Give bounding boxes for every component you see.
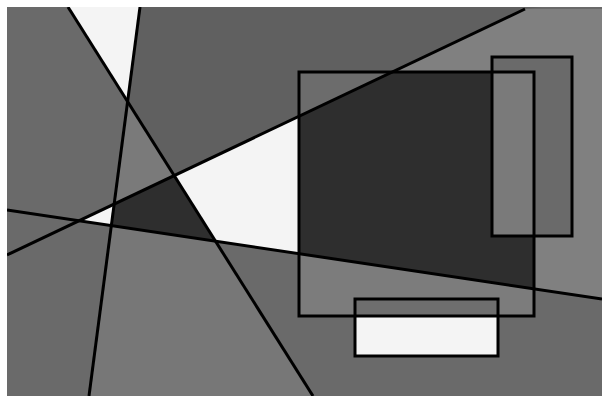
tall-rect-top <box>492 57 534 72</box>
small-rect-bottom <box>355 316 498 356</box>
tall-rect-right <box>534 57 572 236</box>
abstract-artwork <box>0 0 607 409</box>
small-rect-top <box>355 299 498 316</box>
tall-rect-overlap <box>492 72 534 236</box>
